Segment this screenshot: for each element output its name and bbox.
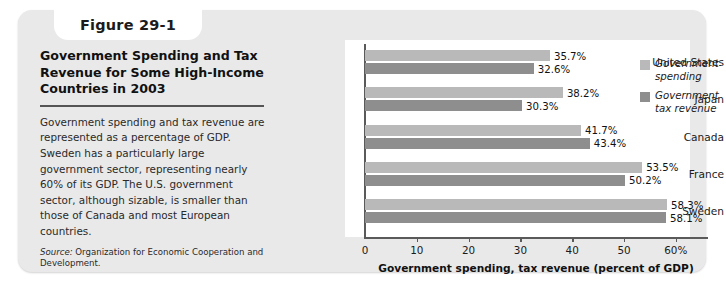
bar-value-label: 32.6%	[538, 63, 570, 74]
bar-value-label: 41.7%	[585, 125, 617, 136]
x-tick-mark	[417, 237, 418, 242]
figure-number-label: Figure 29-1	[80, 17, 176, 33]
category-label: Canada	[632, 131, 724, 143]
bar-tax	[365, 175, 625, 186]
bar-value-label: 35.7%	[554, 50, 586, 61]
x-tick-label: 20	[462, 244, 475, 256]
category-label: Japan	[632, 93, 724, 105]
category-label: Sweden	[632, 205, 724, 217]
bar-spending	[365, 125, 581, 136]
bar-value-label: 30.3%	[526, 100, 558, 111]
bar-tax	[365, 212, 666, 223]
figure-description: Government spending and tax revenue are …	[40, 115, 268, 240]
category-label: France	[632, 168, 724, 180]
bar-tax	[365, 100, 522, 111]
x-tick-label: 40	[566, 244, 579, 256]
x-axis-title: Government spending, tax revenue (percen…	[364, 262, 708, 274]
x-tick-mark	[676, 237, 677, 242]
category-label: United States	[632, 56, 724, 68]
figure-panel: Figure 29-1 Government Spending and Tax …	[18, 10, 706, 272]
bar-spending	[365, 162, 642, 173]
x-tick-label: 10	[410, 244, 423, 256]
x-tick-mark	[572, 237, 573, 242]
source-text: Organization for Economic Cooperation an…	[40, 247, 263, 269]
figure-source: Source: Organization for Economic Cooper…	[40, 247, 268, 270]
figure-number-tab: Figure 29-1	[54, 9, 202, 40]
bar-spending	[365, 87, 563, 98]
title-divider	[40, 105, 264, 107]
bar-value-label: 43.4%	[594, 138, 626, 149]
x-tick-mark	[469, 237, 470, 242]
bar-tax	[365, 63, 534, 74]
x-axis-line	[364, 237, 708, 239]
figure-title: Government Spending and Tax Revenue for …	[40, 48, 268, 98]
x-tick-label: 50	[617, 244, 630, 256]
bar-value-label: 38.2%	[567, 87, 599, 98]
figure-caption-column: Government Spending and Tax Revenue for …	[40, 48, 268, 270]
bar-spending	[365, 199, 667, 210]
bar-chart: 35.7%32.6%38.2%30.3%41.7%43.4%53.5%50.2%…	[268, 40, 724, 272]
bar-tax	[365, 138, 590, 149]
x-tick-mark	[624, 237, 625, 242]
x-tick-label: 30	[514, 244, 527, 256]
x-tick-label: 0	[362, 244, 369, 256]
x-tick-label: 60%	[664, 244, 687, 256]
bar-spending	[365, 50, 550, 61]
source-label: Source:	[40, 247, 73, 257]
x-tick-mark	[520, 237, 521, 242]
